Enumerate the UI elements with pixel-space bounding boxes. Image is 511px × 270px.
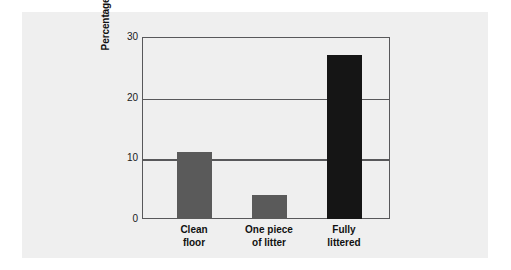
- x-tick-label-line: littered: [296, 236, 392, 249]
- bar-fully-littered: [327, 55, 362, 219]
- y-tick-label: 20: [112, 93, 138, 103]
- bar-clean-floor: [177, 152, 212, 219]
- y-tick-label: 30: [112, 32, 138, 42]
- x-tick-label-line: Fully: [296, 223, 392, 236]
- y-tick-label: 0: [112, 214, 138, 224]
- x-axis-tick-labels: Clean floor One piece of litter Fully li…: [142, 223, 390, 259]
- x-tick-label-fully-littered: Fully littered: [296, 223, 392, 249]
- chart-figure: Percentage of people who littered 30 20 …: [0, 0, 511, 270]
- bar-one-piece-of-litter: [252, 195, 287, 219]
- y-tick-label: 10: [112, 153, 138, 163]
- y-axis-tick-labels: 30 20 10 0: [110, 0, 138, 270]
- bar-series: [142, 37, 390, 219]
